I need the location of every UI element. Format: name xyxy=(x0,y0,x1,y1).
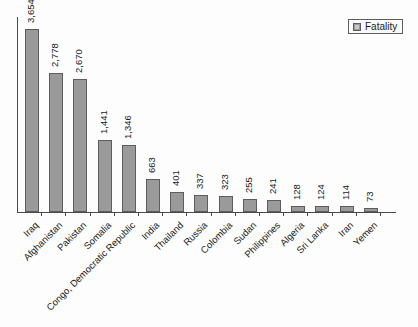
legend-label-fatality: Fatality xyxy=(365,21,397,32)
bar-chart: 3,6542,7782,6701,4411,346663401337323255… xyxy=(0,0,418,327)
bar-slot: 128 xyxy=(287,17,311,212)
bar-slot: 241 xyxy=(263,17,287,212)
bar-value-label: 241 xyxy=(267,178,278,194)
bar-slot: 323 xyxy=(215,17,239,212)
bar-value-label: 1,346 xyxy=(122,115,133,139)
bar-slot: 255 xyxy=(239,17,263,212)
bar-value-label: 73 xyxy=(364,192,375,203)
bar-slot: 114 xyxy=(336,17,360,212)
bar-slot: 73 xyxy=(360,17,384,212)
bar-slot: 663 xyxy=(142,17,166,212)
bar-value-label: 3,654 xyxy=(25,0,36,23)
bar-value-label: 2,778 xyxy=(49,43,60,67)
bar-value-label: 323 xyxy=(219,174,230,190)
legend-swatch-fatality xyxy=(353,23,361,31)
bar-value-label: 337 xyxy=(194,173,205,189)
bar-value-label: 663 xyxy=(146,157,157,173)
bar-value-label: 2,670 xyxy=(73,49,84,73)
bar-slot: 2,778 xyxy=(45,17,69,212)
category-label-text: Iran xyxy=(336,218,357,239)
bar-value-label: 255 xyxy=(243,177,254,193)
bar-slot: 2,670 xyxy=(69,17,93,212)
bar[interactable] xyxy=(49,73,63,212)
bar-slot: 124 xyxy=(311,17,335,212)
bar-slot: 1,346 xyxy=(118,17,142,212)
chart-legend: Fatality xyxy=(348,19,403,34)
bar-value-label: 1,441 xyxy=(98,110,109,134)
bar-slot: 3,654 xyxy=(21,17,45,212)
bar[interactable] xyxy=(25,29,39,212)
bar-slot: 337 xyxy=(190,17,214,212)
